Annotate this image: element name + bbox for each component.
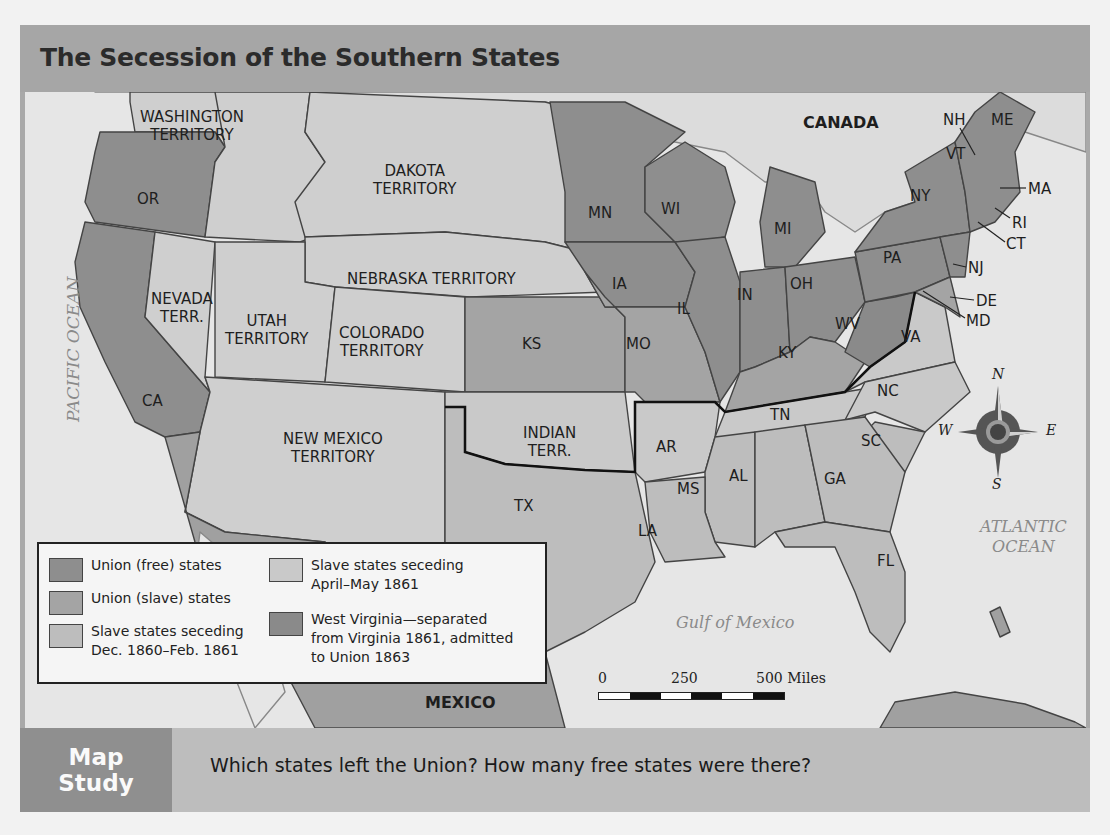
label-mexico: MEXICO <box>425 694 495 712</box>
map-legend: Union (free) states Union (slave) states… <box>37 542 547 684</box>
label-ks: KS <box>522 335 541 353</box>
label-indian-territory: INDIANTERR. <box>523 424 576 460</box>
scale-tick-0: 0 <box>598 670 607 686</box>
label-atlantic-ocean: ATLANTIC OCEAN <box>980 517 1067 557</box>
label-ri: RI <box>1012 214 1027 232</box>
label-ga: GA <box>824 470 846 488</box>
label-il: IL <box>677 300 690 318</box>
compass-icon <box>950 372 1046 492</box>
label-ca: CA <box>142 392 163 410</box>
label-la: LA <box>638 522 657 540</box>
label-wv: WV <box>835 315 860 333</box>
label-vt: VT <box>946 145 965 163</box>
label-ms: MS <box>677 480 699 498</box>
label-utah-territory: UTAHTERRITORY <box>225 312 309 348</box>
label-canada: CANADA <box>803 114 879 132</box>
label-mn: MN <box>588 204 612 222</box>
label-tx: TX <box>514 497 533 515</box>
label-sc: SC <box>861 432 881 450</box>
label-pacific-ocean: PACIFIC OCEAN <box>63 277 83 422</box>
map-figure: The Secession of the Southern States <box>20 25 1090 812</box>
label-gulf-of-mexico: Gulf of Mexico <box>676 613 794 633</box>
label-ny: NY <box>910 187 930 205</box>
title-bar: The Secession of the Southern States <box>20 25 1090 92</box>
label-nj: NJ <box>968 259 984 277</box>
swatch-west-virginia <box>269 612 303 636</box>
map-study-bar: Map Study Which states left the Union? H… <box>20 728 1090 812</box>
atlantic-line1: ATLANTIC <box>980 517 1067 537</box>
label-va: VA <box>901 328 921 346</box>
map-title: The Secession of the Southern States <box>40 43 560 72</box>
scale-tick-250: 250 <box>671 670 698 686</box>
label-ar: AR <box>656 438 677 456</box>
scale-bar: 0 250 500 Miles <box>598 670 785 700</box>
legend-item-west-virginia: West Virginia—separatedfrom Virginia 186… <box>269 610 513 667</box>
label-nc: NC <box>877 382 899 400</box>
label-dakota-territory: DAKOTATERRITORY <box>373 162 457 198</box>
label-de: DE <box>976 292 997 310</box>
label-ky: KY <box>778 344 796 362</box>
label-ma: MA <box>1028 180 1051 198</box>
label-al: AL <box>729 467 748 485</box>
scale-bar-graphic <box>598 692 785 700</box>
swatch-seceding-early <box>49 624 83 648</box>
legend-item-union-slave: Union (slave) states <box>49 589 231 615</box>
compass-rose: N S W E <box>950 372 1046 492</box>
label-me: ME <box>991 111 1013 129</box>
scale-tick-500: 500 Miles <box>756 670 826 686</box>
label-nevada-territory: NEVADATERR. <box>151 290 213 326</box>
legend-item-seceding-early: Slave states secedingDec. 1860–Feb. 1861 <box>49 622 244 660</box>
label-mi: MI <box>774 220 791 238</box>
compass-w: W <box>938 422 952 438</box>
label-washington-territory: WASHINGTONTERRITORY <box>140 108 244 144</box>
label-colorado-territory: COLORADOTERRITORY <box>339 324 424 360</box>
swatch-union-slave <box>49 591 83 615</box>
label-in: IN <box>737 286 753 304</box>
label-tn: TN <box>770 406 790 424</box>
label-nh: NH <box>943 111 966 129</box>
label-pa: PA <box>883 249 901 267</box>
label-ia: IA <box>612 275 627 293</box>
label-ct: CT <box>1006 235 1026 253</box>
label-nebraska-territory: NEBRASKA TERRITORY <box>347 270 516 288</box>
swatch-seceding-late <box>269 558 303 582</box>
legend-item-union-free: Union (free) states <box>49 556 222 582</box>
label-or: OR <box>137 190 159 208</box>
map-study-question: Which states left the Union? How many fr… <box>210 754 811 776</box>
swatch-union-free <box>49 558 83 582</box>
atlantic-line2: OCEAN <box>980 537 1067 557</box>
label-mo: MO <box>626 335 651 353</box>
label-fl: FL <box>877 552 894 570</box>
compass-e: E <box>1046 422 1056 438</box>
legend-item-seceding-late: Slave states secedingApril–May 1861 <box>269 556 464 594</box>
label-new-mexico-territory: NEW MEXICOTERRITORY <box>283 430 383 466</box>
compass-n: N <box>992 366 1004 382</box>
compass-s: S <box>992 476 1002 492</box>
label-wi: WI <box>661 200 680 218</box>
map-canvas: CANADA MEXICO PACIFIC OCEAN ATLANTIC OCE… <box>25 92 1086 728</box>
map-study-badge: Map Study <box>20 728 172 812</box>
label-oh: OH <box>790 275 813 293</box>
label-md: MD <box>966 312 991 330</box>
